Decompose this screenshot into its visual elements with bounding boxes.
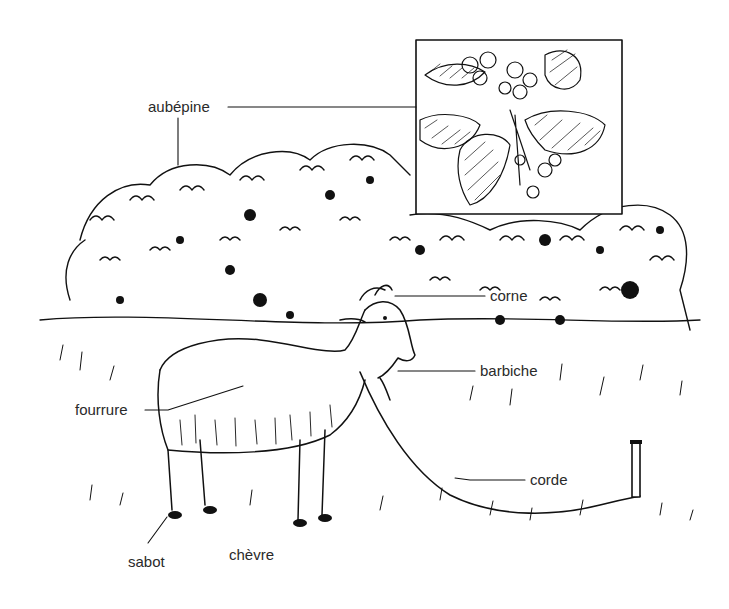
label-corne: corne	[490, 288, 528, 303]
goat-hooves	[168, 506, 332, 527]
label-aubepine: aubépine	[148, 99, 210, 114]
illustration	[0, 0, 729, 609]
label-corde: corde	[530, 472, 568, 487]
goat-eye	[383, 316, 387, 320]
grass-horizon	[40, 317, 700, 323]
grass-strokes	[60, 345, 693, 520]
label-barbiche: barbiche	[480, 363, 538, 378]
stake	[632, 442, 640, 497]
label-sabot: sabot	[128, 554, 165, 569]
label-fourrure: fourrure	[75, 402, 128, 417]
rope	[360, 372, 640, 513]
goat-fur-strokes	[180, 405, 332, 446]
goat-figure	[158, 285, 415, 520]
label-chevre: chèvre	[229, 547, 274, 562]
